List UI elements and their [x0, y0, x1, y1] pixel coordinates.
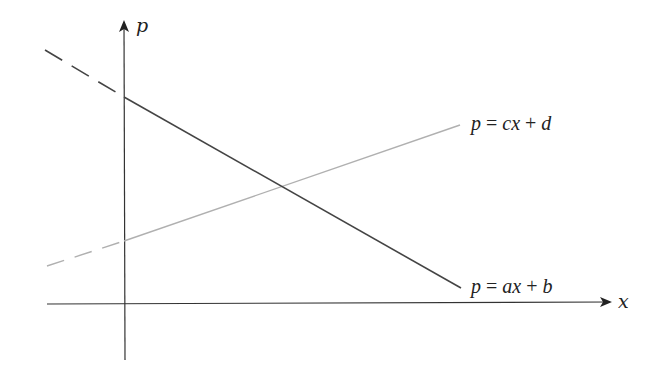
supply-equation-label: p = cx + d: [469, 112, 552, 135]
y-axis: [124, 22, 125, 360]
demand-equation-label: p = ax + b: [469, 275, 552, 298]
demand-line: [45, 50, 461, 288]
x-axis: [47, 302, 610, 304]
linear-functions-diagram: x p p = cx + d p = ax + b: [0, 0, 656, 373]
y-axis-label: p: [136, 14, 148, 36]
x-axis-label: x: [618, 290, 629, 312]
supply-line: [47, 125, 460, 266]
